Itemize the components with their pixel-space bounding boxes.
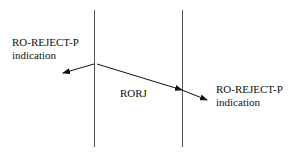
left-indication-arrow: [63, 64, 94, 73]
diagram-lines: [0, 0, 293, 160]
sequence-diagram: RO-REJECT-P indication RORJ RO-REJECT-P …: [0, 0, 293, 160]
right-label-line2: indication: [216, 96, 283, 109]
right-label-line1: RO-REJECT-P: [216, 83, 283, 96]
rorj-label: RORJ: [120, 87, 147, 100]
right-indication-arrow: [182, 90, 207, 100]
left-indication-label: RO-REJECT-P indication: [12, 36, 79, 62]
right-indication-label: RO-REJECT-P indication: [216, 83, 283, 109]
left-label-line2: indication: [12, 49, 79, 62]
left-label-line1: RO-REJECT-P: [12, 36, 79, 49]
